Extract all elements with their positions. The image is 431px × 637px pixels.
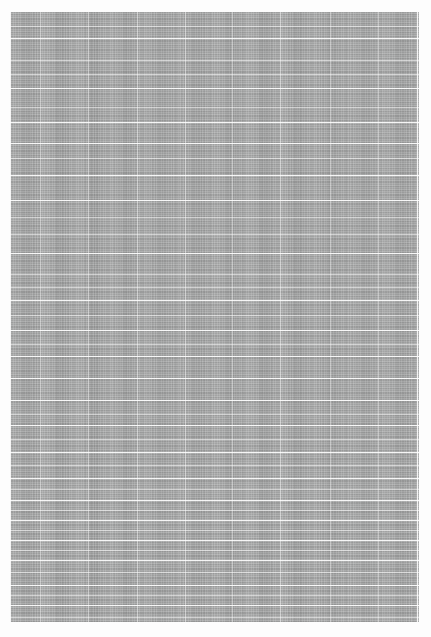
row-rule (10, 287, 419, 288)
row-group-rule (10, 478, 419, 479)
row-rule (10, 274, 419, 275)
column-rule (137, 12, 138, 622)
column-rule (40, 12, 41, 622)
row-rule (10, 489, 419, 490)
column-rule (378, 12, 379, 622)
row-group-rule (10, 378, 419, 379)
row-rule (10, 595, 419, 596)
column-rule (280, 12, 281, 622)
row-rule (10, 465, 419, 466)
row-group-rule (10, 122, 419, 123)
row-group-rule (10, 560, 419, 561)
document-page (0, 0, 431, 637)
row-rule (10, 530, 419, 531)
row-rule (10, 60, 419, 61)
row-rule (10, 107, 419, 108)
row-group-rule (10, 540, 419, 541)
column-rule (417, 12, 418, 622)
row-group-rule (10, 143, 419, 144)
row-rule (10, 74, 419, 75)
row-group-rule (10, 425, 419, 426)
table-body (10, 12, 419, 622)
row-rule (10, 617, 419, 618)
row-group-rule (10, 330, 419, 331)
row-rule (10, 572, 419, 573)
row-group-rule (10, 400, 419, 401)
row-group-rule (10, 356, 419, 357)
row-group-rule (10, 585, 419, 586)
column-rule (185, 12, 186, 622)
row-rule (10, 158, 419, 159)
row-group-rule (10, 300, 419, 301)
row-rule (10, 26, 419, 27)
row-group-rule (10, 520, 419, 521)
column-rule (232, 12, 233, 622)
row-rule (10, 414, 419, 415)
microtext-line-texture (10, 12, 419, 622)
row-group-rule (10, 88, 419, 89)
row-group-rule (10, 452, 419, 453)
row-rule (10, 217, 419, 218)
microtext-glyph-texture (10, 12, 419, 622)
row-rule (10, 439, 419, 440)
row-group-rule (10, 500, 419, 501)
row-group-rule (10, 175, 419, 176)
row-rule (10, 315, 419, 316)
row-group-rule (10, 38, 419, 39)
row-rule (10, 234, 419, 235)
column-rule (88, 12, 89, 622)
row-group-rule (10, 253, 419, 254)
column-rule (330, 12, 331, 622)
row-rule (10, 510, 419, 511)
row-rule (10, 550, 419, 551)
column-rule (10, 12, 11, 622)
row-rule (10, 344, 419, 345)
row-group-rule (10, 200, 419, 201)
row-group-rule (10, 605, 419, 606)
tonal-variation-overlay (10, 12, 419, 622)
